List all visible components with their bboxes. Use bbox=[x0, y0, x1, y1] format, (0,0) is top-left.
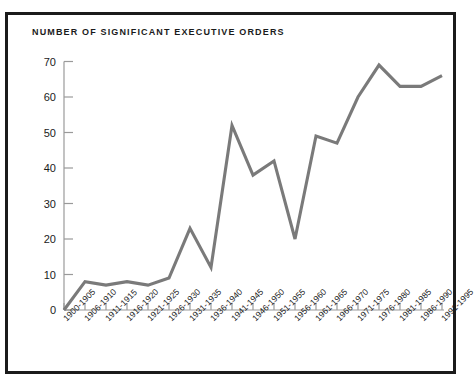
y-tick-label: 0 bbox=[30, 304, 56, 316]
y-tick-label: 10 bbox=[30, 269, 56, 281]
y-tick-label: 50 bbox=[30, 127, 56, 139]
y-tick-label: 70 bbox=[30, 56, 56, 68]
y-tick-label: 30 bbox=[30, 198, 56, 210]
y-tick-label: 60 bbox=[30, 91, 56, 103]
y-tick-label: 20 bbox=[30, 233, 56, 245]
data-series-line bbox=[64, 65, 442, 310]
y-tick-label: 40 bbox=[30, 162, 56, 174]
